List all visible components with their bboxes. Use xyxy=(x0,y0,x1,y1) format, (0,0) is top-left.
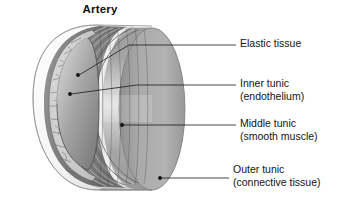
artery-diagram-figure: Artery xyxy=(0,0,339,216)
label-elastic-tissue-line1: Elastic tissue xyxy=(240,37,301,49)
label-inner-tunic-line1: Inner tunic xyxy=(240,77,289,89)
leader-dot-outer-tunic xyxy=(158,176,162,180)
label-middle-tunic-line1: Middle tunic xyxy=(240,117,296,129)
leader-dot-middle-tunic xyxy=(120,123,124,127)
label-outer-tunic-line1: Outer tunic xyxy=(233,163,284,175)
label-inner-tunic: Inner tunic (endothelium) xyxy=(240,77,304,102)
label-outer-tunic-line2: (connective tissue) xyxy=(233,176,321,189)
leader-dot-elastic-tissue xyxy=(76,73,80,77)
label-outer-tunic: Outer tunic (connective tissue) xyxy=(233,163,321,188)
label-inner-tunic-line2: (endothelium) xyxy=(240,90,304,103)
label-elastic-tissue: Elastic tissue xyxy=(240,37,301,50)
leader-dot-inner-tunic xyxy=(68,92,72,96)
label-middle-tunic: Middle tunic (smooth muscle) xyxy=(240,117,318,142)
label-middle-tunic-line2: (smooth muscle) xyxy=(240,130,318,143)
